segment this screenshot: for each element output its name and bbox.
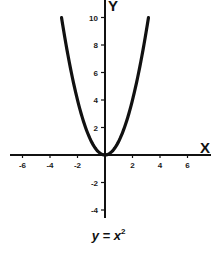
x-tick-label: 4 bbox=[158, 161, 163, 170]
x-tick-label: -2 bbox=[74, 161, 82, 170]
y-tick-label: 6 bbox=[94, 69, 99, 78]
y-tick-label: 2 bbox=[94, 124, 99, 133]
y-tick-label: -4 bbox=[91, 206, 99, 215]
y-tick-label: 8 bbox=[94, 41, 99, 50]
parabola-chart: -6-4-2246108642-2-4 X Y bbox=[0, 0, 217, 254]
x-tick-label: -6 bbox=[19, 161, 27, 170]
axes bbox=[10, 0, 211, 218]
y-tick-label: 10 bbox=[89, 14, 98, 23]
x-axis-title: X bbox=[200, 139, 210, 156]
x-tick-label: 6 bbox=[185, 161, 190, 170]
equation-text: y = x bbox=[92, 228, 121, 243]
x-tick-label: -4 bbox=[46, 161, 54, 170]
y-tick-label: 4 bbox=[94, 96, 99, 105]
equation-caption: y = x2 bbox=[0, 228, 217, 243]
y-tick-label: -2 bbox=[91, 179, 99, 188]
x-tick-label: 2 bbox=[130, 161, 135, 170]
equation-exponent: 2 bbox=[121, 227, 125, 236]
y-axis-title: Y bbox=[108, 0, 118, 14]
